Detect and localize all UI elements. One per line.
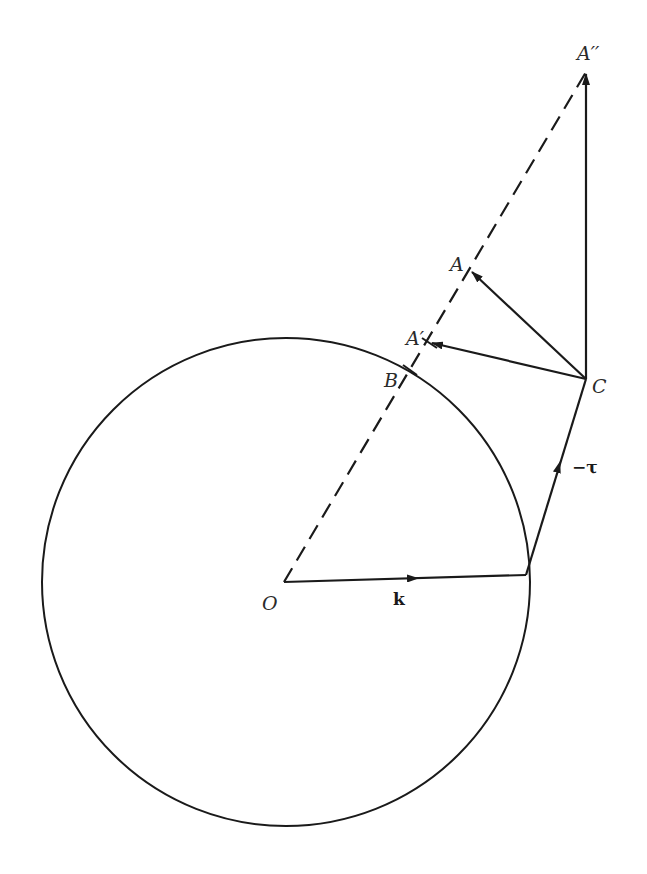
label-o: O (262, 592, 278, 614)
vector-k-line (284, 575, 526, 582)
label-k: k (393, 589, 406, 609)
vector-neg-tau-line (526, 379, 586, 575)
label-c: C (592, 375, 607, 397)
dashed-line-o-to-a-double-prime (284, 72, 586, 582)
label-a-prime: A′ (404, 327, 425, 349)
label-neg-tau: −τ (572, 457, 598, 477)
vector-c-to-a (472, 272, 586, 379)
label-a: A (448, 253, 464, 275)
label-b: B (383, 369, 398, 391)
vector-c-to-a-prime (432, 343, 586, 379)
label-a-double-prime: A′′ (575, 42, 600, 64)
diagram-canvas: O k −τ B C A A′ A′′ (0, 0, 647, 874)
